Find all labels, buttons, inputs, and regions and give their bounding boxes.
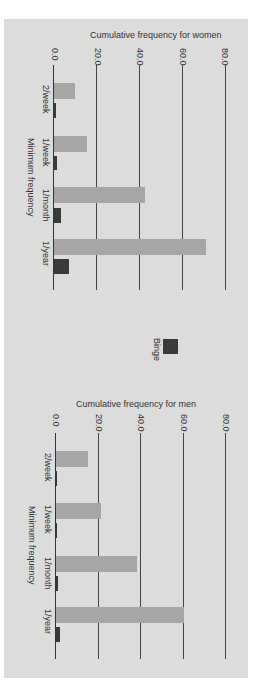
men-bar-binge-2week [56,451,88,467]
women-category-1week: 1/week [41,138,51,167]
women-tick-80: 80.0 [220,48,230,66]
men-category-1year: 1/year [43,609,53,634]
women-bar-purge-1month [54,208,61,223]
legend-swatch-purge [163,339,178,354]
men-axis-title: Minimum frequency [27,506,37,585]
men-tick-80: 80.0 [221,414,231,432]
men-bar-purge-2week [56,471,57,486]
women-gridline-80 [225,65,226,290]
women-bar-binge-1year [54,239,206,255]
men-bar-purge-1year [56,627,60,642]
women-tick-20: 20.0 [93,48,103,66]
women-bar-purge-1year [54,259,69,274]
women-tick-0: 0.0 [50,48,60,61]
women-category-1month: 1/month [41,189,51,222]
women-axis-title: Minimum frequency [26,138,36,217]
legend-label-binge: Binge [152,338,162,361]
women-tick-60: 60.0 [178,48,188,66]
women-gridline-60 [182,65,183,290]
men-bar-binge-1week [56,503,101,519]
men-tick-60: 60.0 [179,414,189,432]
men-bar-binge-1year [56,607,184,623]
men-gridline-20 [98,433,99,659]
men-bar-purge-1month [56,576,58,591]
men-tick-20: 20.0 [94,414,104,432]
women-bar-binge-2week [54,83,75,99]
men-chart-title: Cumulative frequency for men [76,399,196,409]
women-chart-title: Cumulative frequency for women [90,30,222,40]
women-category-2week: 2/week [41,85,51,114]
women-bar-purge-1week [54,156,57,170]
women-bar-binge-1week [54,136,87,152]
women-gridline-40 [139,65,140,290]
men-category-2week: 2/week [43,453,53,482]
men-bar-purge-1week [56,523,57,538]
men-gridline-80 [225,433,226,659]
men-bar-binge-1month [56,556,137,572]
chart-panel [4,19,248,678]
men-category-1week: 1/week [43,505,53,534]
men-gridline-60 [183,433,184,659]
women-gridline-20 [96,65,97,290]
women-bar-purge-2week [54,103,56,118]
men-tick-0: 0.0 [51,414,61,427]
women-category-1year: 1/year [41,241,51,266]
women-tick-40: 40.0 [135,48,145,66]
men-gridline-40 [140,433,141,659]
men-category-1month: 1/month [43,557,53,590]
women-bar-binge-1month [54,187,145,203]
men-tick-40: 40.0 [136,414,146,432]
